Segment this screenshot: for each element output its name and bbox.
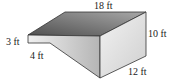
label-step-length: 4 ft (30, 50, 44, 61)
label-depth: 12 ft (128, 66, 147, 77)
label-top-length: 18 ft (94, 0, 113, 11)
prism-diagram: 18 ft 10 ft 3 ft 4 ft 12 ft (0, 0, 172, 82)
label-height-left: 3 ft (6, 36, 20, 47)
label-height-right: 10 ft (148, 28, 167, 39)
